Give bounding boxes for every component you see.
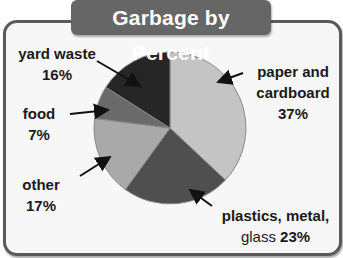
label-plastics-name2: glass	[241, 228, 276, 245]
label-paper-pct: 37%	[243, 103, 343, 124]
label-paper-name1: paper and	[243, 61, 343, 82]
label-food-name: food	[23, 105, 55, 122]
label-other-name: other	[22, 176, 60, 193]
label-plastics-pct: 23%	[280, 228, 310, 245]
label-other: other 17%	[14, 174, 68, 216]
label-other-pct: 17%	[14, 195, 68, 216]
label-paper: paper and cardboard 37%	[243, 61, 343, 124]
label-plastics: plastics, metal, glass 23%	[213, 205, 338, 247]
label-paper-name2: cardboard	[243, 82, 343, 103]
label-plastics-name1: plastics, metal,	[213, 205, 338, 226]
label-yard-name: yard waste	[18, 45, 96, 62]
label-food-pct: 7%	[14, 124, 64, 145]
label-food: food 7%	[14, 103, 64, 145]
chart-title: Garbage by Percent	[71, 0, 271, 35]
label-yard-pct: 16%	[12, 64, 102, 85]
pie-slices	[94, 52, 246, 204]
label-yard-waste: yard waste 16%	[12, 43, 102, 85]
